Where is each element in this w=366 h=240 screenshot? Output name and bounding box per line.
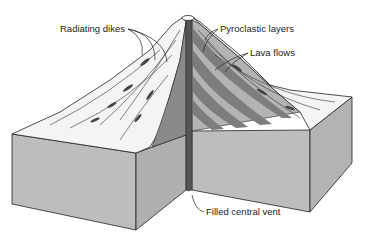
label-lava-flows: Lava flows — [250, 47, 295, 58]
leader-vent — [192, 195, 204, 212]
volcano-diagram: Radiating dikes Pyroclastic layers Lava … — [0, 0, 366, 240]
label-pyroclastic-layers: Pyroclastic layers — [220, 23, 294, 34]
central-vent — [186, 20, 192, 191]
stratified-layers — [192, 20, 300, 131]
right-block-front-face — [192, 130, 310, 212]
volcano-illustration: Radiating dikes Pyroclastic layers Lava … — [0, 0, 366, 240]
crater — [182, 16, 194, 21]
label-filled-central-vent: Filled central vent — [206, 206, 281, 217]
label-radiating-dikes: Radiating dikes — [60, 23, 125, 34]
